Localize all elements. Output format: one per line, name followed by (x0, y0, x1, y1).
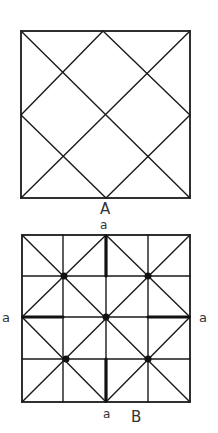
dot (145, 273, 152, 280)
figure-a (21, 31, 190, 198)
label-a-top: a (100, 218, 107, 232)
diagram-canvas: A a a a a B (0, 0, 218, 433)
figure-a-caption: A (100, 200, 111, 218)
dot (145, 356, 152, 363)
dot (103, 314, 110, 321)
label-a-right: a (199, 310, 207, 325)
dot (63, 356, 70, 363)
figure-b (22, 235, 190, 402)
figure-b-caption: B (131, 408, 141, 426)
dot (61, 273, 68, 280)
label-a-bottom: a (103, 407, 110, 421)
label-a-left: a (2, 310, 10, 325)
